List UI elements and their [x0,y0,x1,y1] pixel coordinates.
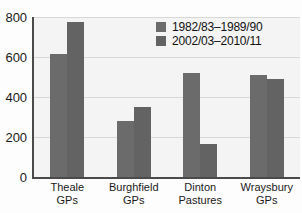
x-axis-label-theale-line1: Theale [34,181,100,194]
bar-group-burghfield [117,17,151,177]
legend-label-1982-1989: 1982/83–1989/90 [172,21,262,33]
legend-swatch-icon-1982-1989 [156,22,166,32]
x-axis-label-wraysbury-line2: GPs [234,194,300,207]
y-axis-tick-0: 0 [20,171,27,184]
x-axis-label-burghfield: Burghfield GPs [101,181,167,213]
bar-wraysbury-2002-2010[interactable] [267,79,284,177]
bar-dinton-2002-2010[interactable] [200,144,217,177]
bar-theale-2002-2010[interactable] [67,22,84,177]
y-axis-labels: 800 600 400 200 0 [0,0,30,213]
x-axis-label-theale: Theale GPs [34,181,100,213]
bar-wraysbury-1982-1989[interactable] [250,75,267,177]
legend-label-2002-2010: 2002/03–2010/11 [172,35,262,47]
legend-item-2002-2010[interactable]: 2002/03–2010/11 [156,35,262,47]
x-axis-label-dinton-line2: Pastures [167,194,233,207]
y-axis-tick-600: 600 [6,51,27,64]
x-axis-label-burghfield-line2: GPs [101,194,167,207]
y-axis-tick-400: 400 [6,91,27,104]
x-axis-label-dinton: Dinton Pastures [167,181,233,213]
x-axis-label-wraysbury: Wraysbury GPs [234,181,300,213]
bar-burghfield-1982-1989[interactable] [117,121,134,177]
bar-dinton-1982-1989[interactable] [183,73,200,177]
x-axis-label-wraysbury-line1: Wraysbury [234,181,300,194]
legend-item-1982-1989[interactable]: 1982/83–1989/90 [156,21,262,33]
x-axis-labels: Theale GPs Burghfield GPs Dinton Pasture… [34,181,300,213]
bar-theale-1982-1989[interactable] [50,54,67,177]
bar-chart: 800 600 400 200 0 [0,0,302,213]
legend: 1982/83–1989/90 2002/03–2010/11 [156,21,262,47]
x-axis-label-dinton-line1: Dinton [167,181,233,194]
y-axis-tick-800: 800 [6,11,27,24]
y-axis-tick-200: 200 [6,131,27,144]
x-axis-label-burghfield-line1: Burghfield [101,181,167,194]
bar-group-theale [50,17,84,177]
x-axis-label-theale-line2: GPs [34,194,100,207]
bar-burghfield-2002-2010[interactable] [134,107,151,177]
legend-swatch-icon-2002-2010 [156,36,166,46]
